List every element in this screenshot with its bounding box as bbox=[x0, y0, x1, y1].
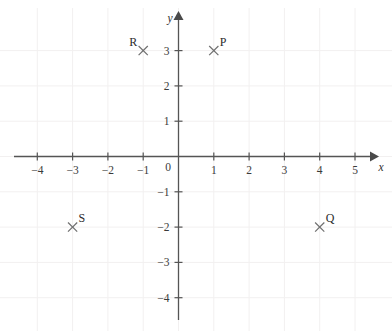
y-axis-tick-label: 2 bbox=[164, 80, 170, 92]
y-axis-tick-label: −1 bbox=[157, 186, 169, 198]
y-axis-tick-label: −4 bbox=[157, 292, 169, 304]
x-axis-tick-label: 4 bbox=[317, 164, 323, 176]
point-label-s: S bbox=[79, 211, 86, 225]
y-axis-tick-label: 3 bbox=[164, 45, 170, 57]
x-axis-tick-label: 3 bbox=[282, 164, 288, 176]
y-axis-tick-label: −3 bbox=[157, 256, 169, 268]
y-axis-label: y bbox=[166, 12, 173, 25]
point-label-p: P bbox=[220, 35, 227, 49]
coordinate-plane-graph: −4−3−2−112345 321−1−2−3−4 0 x y PRSQ bbox=[0, 0, 392, 331]
graph-background bbox=[0, 0, 392, 331]
x-axis-tick-label: 1 bbox=[211, 164, 217, 176]
point-label-r: R bbox=[129, 35, 137, 49]
x-axis-tick-label: −4 bbox=[31, 164, 43, 176]
origin-label: 0 bbox=[165, 161, 171, 173]
point-label-q: Q bbox=[326, 211, 335, 225]
x-axis-tick-label: −1 bbox=[137, 164, 149, 176]
x-axis-tick-label: 5 bbox=[352, 164, 358, 176]
y-axis-tick-label: 1 bbox=[164, 115, 170, 127]
y-axis-tick-label: −2 bbox=[157, 221, 169, 233]
graph-canvas: −4−3−2−112345 321−1−2−3−4 0 x y PRSQ bbox=[0, 0, 392, 331]
x-axis-tick-label: −2 bbox=[102, 164, 114, 176]
x-axis-label: x bbox=[377, 161, 384, 173]
x-axis-tick-label: −3 bbox=[66, 164, 78, 176]
x-axis-tick-label: 2 bbox=[246, 164, 252, 176]
